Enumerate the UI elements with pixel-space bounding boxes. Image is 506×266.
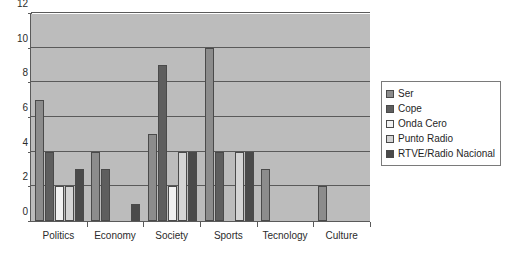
chart-legend: SerCopeOnda CeroPunto RadioRTVE/Radio Na… bbox=[381, 81, 501, 166]
legend-swatch-icon bbox=[386, 150, 394, 158]
y-tick-label: 10 bbox=[4, 34, 28, 44]
bar-group bbox=[88, 14, 145, 221]
bar bbox=[91, 152, 100, 221]
bar bbox=[168, 186, 177, 221]
bar bbox=[75, 169, 84, 221]
plot-area bbox=[30, 14, 370, 222]
bar-group bbox=[201, 14, 258, 221]
x-axis: PoliticsEconomySocietySportsTecnologyCul… bbox=[30, 222, 370, 248]
bar-group bbox=[31, 14, 88, 221]
bar bbox=[318, 186, 327, 221]
legend-swatch-icon bbox=[386, 90, 394, 98]
x-tick-label: Tecnology bbox=[262, 230, 307, 241]
legend-label: Punto Radio bbox=[398, 133, 453, 144]
x-tick-label: Culture bbox=[326, 230, 358, 241]
x-tick-label: Politics bbox=[42, 230, 74, 241]
y-tick-label: 0 bbox=[4, 207, 28, 217]
bar bbox=[245, 152, 254, 221]
bar bbox=[235, 152, 244, 221]
bar-group bbox=[314, 14, 371, 221]
x-tick-mark bbox=[313, 222, 314, 227]
bar bbox=[55, 186, 64, 221]
legend-label: RTVE/Radio Nacional bbox=[398, 148, 495, 159]
x-tick-label: Society bbox=[155, 230, 188, 241]
legend-label: Onda Cero bbox=[398, 118, 447, 129]
legend-swatch-icon bbox=[386, 105, 394, 113]
legend-item[interactable]: Cope bbox=[386, 101, 495, 116]
legend-item[interactable]: Punto Radio bbox=[386, 131, 495, 146]
bars-layer bbox=[31, 14, 370, 221]
bar bbox=[178, 152, 187, 221]
legend-item[interactable]: Ser bbox=[386, 86, 495, 101]
legend-swatch-icon bbox=[386, 135, 394, 143]
y-tick-label: 12 bbox=[4, 0, 28, 9]
x-tick-mark bbox=[370, 222, 371, 227]
x-tick-mark bbox=[257, 222, 258, 227]
x-tick-label: Economy bbox=[94, 230, 136, 241]
bar bbox=[205, 48, 214, 221]
legend-swatch-icon bbox=[386, 120, 394, 128]
bar-chart: 024681012 PoliticsEconomySocietySportsTe… bbox=[0, 0, 506, 266]
bar bbox=[215, 152, 224, 221]
legend-item[interactable]: Onda Cero bbox=[386, 116, 495, 131]
bar bbox=[188, 152, 197, 221]
bar bbox=[158, 65, 167, 221]
gridline bbox=[31, 12, 370, 13]
x-tick-mark bbox=[200, 222, 201, 227]
bar-group bbox=[144, 14, 201, 221]
bar bbox=[131, 204, 140, 221]
bar bbox=[148, 134, 157, 221]
y-tick-label: 6 bbox=[4, 103, 28, 113]
bar bbox=[65, 186, 74, 221]
y-tick-label: 2 bbox=[4, 172, 28, 182]
legend-label: Ser bbox=[398, 88, 414, 99]
bar bbox=[45, 152, 54, 221]
y-tick-label: 8 bbox=[4, 68, 28, 78]
legend-label: Cope bbox=[398, 103, 422, 114]
bar bbox=[35, 100, 44, 221]
y-tick-label: 4 bbox=[4, 138, 28, 148]
y-axis: 024681012 bbox=[0, 14, 28, 222]
x-tick-mark bbox=[87, 222, 88, 227]
legend-item[interactable]: RTVE/Radio Nacional bbox=[386, 146, 495, 161]
bar bbox=[261, 169, 270, 221]
x-tick-label: Sports bbox=[214, 230, 243, 241]
bar-group bbox=[258, 14, 315, 221]
x-tick-mark bbox=[143, 222, 144, 227]
bar bbox=[101, 169, 110, 221]
